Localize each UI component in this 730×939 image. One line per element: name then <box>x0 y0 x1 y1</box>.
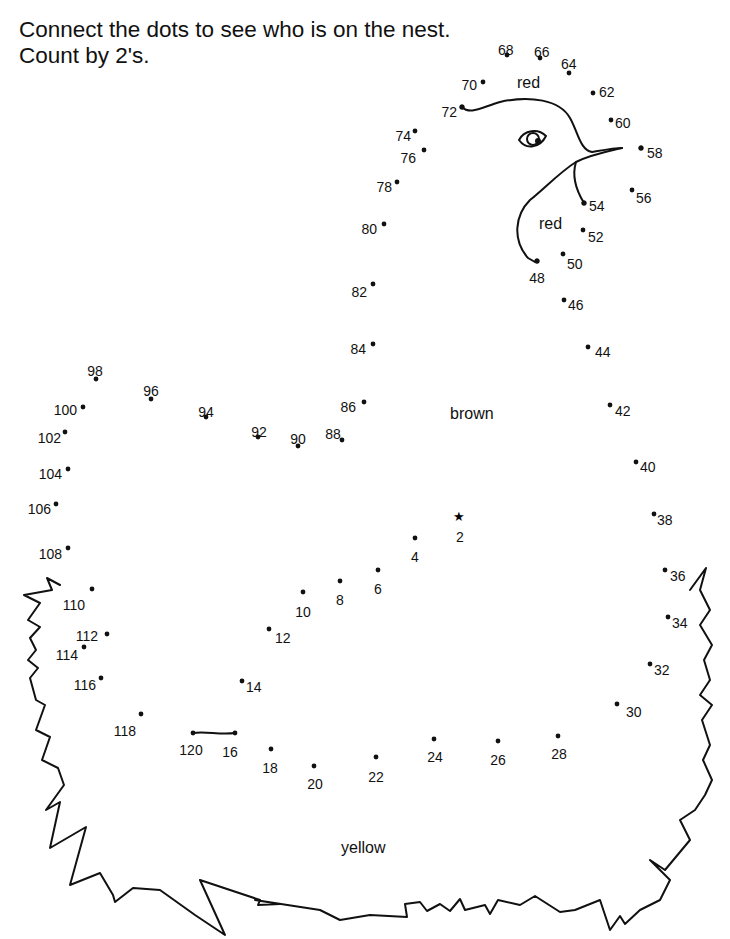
color-label-wattle: red <box>539 215 562 232</box>
dot-marker <box>481 80 486 85</box>
dot-marker <box>371 342 376 347</box>
dot-number-label: 52 <box>588 229 604 245</box>
dot-number-label: 116 <box>74 677 97 693</box>
dot-10: 10 <box>295 590 311 620</box>
dot-marker <box>267 627 272 632</box>
dot-marker <box>81 405 86 410</box>
dot-number-label: 26 <box>490 752 506 768</box>
dot-marker <box>413 536 418 541</box>
dot-number-label: 70 <box>461 77 477 93</box>
dot-104: 104 <box>39 466 71 482</box>
dot-14: 14 <box>240 679 262 695</box>
dot-marker <box>608 403 613 408</box>
dot-number-label: 72 <box>441 104 457 120</box>
dot-48: 48 <box>529 259 545 286</box>
dot-100: 100 <box>54 402 86 418</box>
dot-94: 94 <box>198 404 214 420</box>
dot-114: 114 <box>56 645 87 663</box>
dot-number-label: 78 <box>376 179 392 195</box>
dot-38: 38 <box>652 512 673 528</box>
dot-4: 4 <box>411 536 419 565</box>
dot-number-label: 96 <box>143 383 159 399</box>
dot-number-label: 76 <box>400 150 416 166</box>
dot-66: 66 <box>534 44 550 60</box>
dot-marker <box>582 201 587 206</box>
dot-number-label: 110 <box>63 597 86 613</box>
dot-marker <box>581 228 586 233</box>
dot-106: 106 <box>28 501 59 517</box>
dot-number-label: 42 <box>615 403 631 419</box>
dot-number-label: 38 <box>657 512 673 528</box>
dot-84: 84 <box>350 341 375 357</box>
dot-marker <box>630 188 635 193</box>
dot-marker <box>591 91 596 96</box>
dot-44: 44 <box>586 344 611 360</box>
dot-98: 98 <box>87 363 103 381</box>
dot-12: 12 <box>267 627 291 646</box>
dot-46: 46 <box>562 297 584 313</box>
color-label-comb: red <box>517 74 540 91</box>
dot-82: 82 <box>351 282 375 300</box>
dot-marker <box>301 590 306 595</box>
dot-8: 8 <box>336 579 344 608</box>
dot-110: 110 <box>63 587 95 613</box>
dot-number-label: 40 <box>640 459 656 475</box>
eye-icon <box>519 131 546 146</box>
dot-marker <box>615 702 620 707</box>
dot-number-label: 30 <box>626 704 642 720</box>
dot-54: 54 <box>582 198 605 214</box>
dot-to-dot-drawing: ★246810121416182022242628303234363840424… <box>0 0 730 939</box>
dot-marker <box>648 662 653 667</box>
dot-marker <box>556 734 561 739</box>
dot-108: 108 <box>39 546 71 562</box>
dot-number-label: 100 <box>54 402 78 418</box>
dot-78: 78 <box>376 179 399 195</box>
dot-marker <box>422 148 427 153</box>
dot-56: 56 <box>630 188 652 206</box>
dot-2: ★2 <box>453 509 465 545</box>
beak-lower-line <box>517 148 622 262</box>
dot-number-label: 28 <box>551 746 567 762</box>
dot-number-label: 80 <box>361 221 377 237</box>
dot-number-label: 12 <box>275 630 291 646</box>
dot-number-label: 102 <box>38 430 62 446</box>
dot-number-label: 18 <box>262 760 278 776</box>
dot-number-label: 90 <box>290 431 306 447</box>
dot-62: 62 <box>591 84 615 100</box>
dot-number-label: 60 <box>615 115 631 131</box>
dot-72: 72 <box>441 104 464 120</box>
dot-30: 30 <box>615 702 642 720</box>
dot-number-label: 44 <box>595 344 611 360</box>
dot-marker <box>338 579 343 584</box>
dot-102: 102 <box>38 430 68 446</box>
dot-112: 112 <box>76 628 110 644</box>
dot-number-label: 10 <box>295 604 311 620</box>
dot-number-label: 34 <box>672 615 688 631</box>
dot-marker <box>90 587 95 592</box>
dot-number-label: 92 <box>251 424 267 440</box>
dot-marker <box>371 282 376 287</box>
dot-marker <box>54 502 59 507</box>
dot-marker <box>413 129 418 134</box>
line-120-to-16 <box>193 732 235 733</box>
dot-number-label: 94 <box>198 404 214 420</box>
dot-20: 20 <box>307 764 323 792</box>
dot-50: 50 <box>561 252 583 272</box>
dot-marker <box>99 676 104 681</box>
dot-36: 36 <box>663 568 686 584</box>
dot-number-label: 14 <box>246 679 262 695</box>
dot-96: 96 <box>143 383 159 401</box>
dot-number-label: 6 <box>374 581 382 597</box>
dot-marker <box>663 568 668 573</box>
dot-marker <box>105 632 110 637</box>
dot-number-label: 20 <box>307 776 323 792</box>
dot-number-label: 4 <box>411 549 419 565</box>
dot-number-label: 54 <box>589 198 605 214</box>
dot-88: 88 <box>325 426 344 442</box>
dot-marker <box>240 679 245 684</box>
dot-marker <box>362 400 367 405</box>
dot-number-label: 106 <box>28 501 52 517</box>
dot-60: 60 <box>609 115 631 131</box>
dot-24: 24 <box>427 737 443 765</box>
dot-marker <box>496 739 501 744</box>
